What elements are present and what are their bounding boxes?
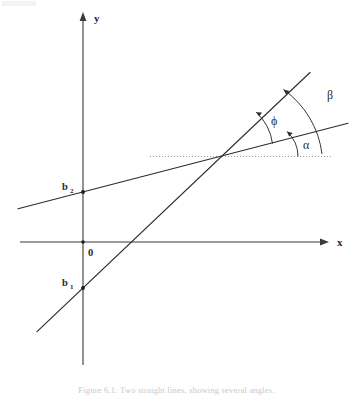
arc-arrowhead-icon <box>256 112 262 116</box>
lines-group <box>18 73 348 332</box>
intercept-b1-marker <box>81 286 85 290</box>
intercept-b1-subscript: 1 <box>70 283 74 291</box>
figure-plot-area: y x 0 b 2 b 1 α <box>0 0 353 395</box>
arrow-right-icon <box>320 239 329 246</box>
intercept-b2-group: b 2 <box>62 181 85 195</box>
angle-alpha-label: α <box>303 138 310 152</box>
intercept-b1-label: b <box>62 277 68 288</box>
figure-caption: Figure 6.1: Two straight lines, showing … <box>0 385 353 395</box>
steep-line <box>37 73 310 332</box>
angle-phi-label: ϕ <box>271 114 277 128</box>
arc-arrowhead-icon <box>287 132 293 137</box>
figure-container: y x 0 b 2 b 1 α <box>0 0 353 395</box>
intercept-b2-subscript: 2 <box>70 187 74 195</box>
y-axis-label: y <box>94 12 100 24</box>
angle-beta-label: β <box>327 88 333 102</box>
angle-alpha-arc <box>287 132 298 157</box>
angle-phi-group: ϕ <box>256 112 277 143</box>
arrow-up-icon <box>80 12 87 21</box>
x-axis-label: x <box>337 236 343 248</box>
intercept-b2-marker <box>81 190 85 194</box>
intercept-b2-label: b <box>62 181 68 192</box>
axes-group: y x 0 <box>20 12 343 365</box>
shallow-line <box>18 123 348 209</box>
origin-marker <box>81 240 84 243</box>
angle-alpha-group: α <box>287 132 310 157</box>
origin-label: 0 <box>88 247 93 258</box>
intercept-b1-group: b 1 <box>62 277 85 291</box>
